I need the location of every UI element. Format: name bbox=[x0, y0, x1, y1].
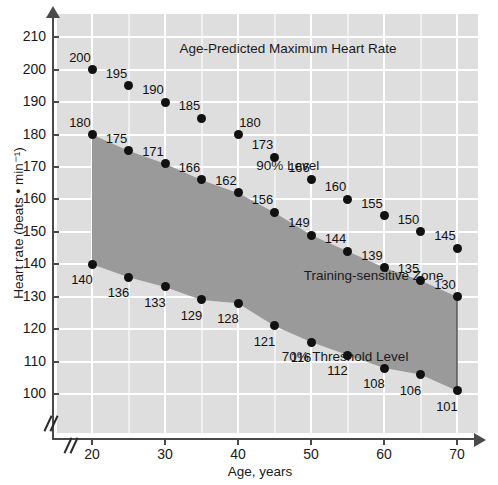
data-point bbox=[416, 370, 425, 379]
data-point bbox=[307, 231, 316, 240]
data-point-label: 128 bbox=[211, 311, 245, 326]
data-point bbox=[307, 338, 316, 347]
y-tick-mark-130 bbox=[54, 296, 59, 298]
data-point bbox=[234, 188, 243, 197]
data-point bbox=[343, 195, 352, 204]
y-tick-mark-110 bbox=[54, 361, 59, 363]
data-point-label: 112 bbox=[321, 363, 355, 378]
y-tick-mark-180 bbox=[54, 134, 59, 136]
x-tick-mark-40 bbox=[237, 440, 239, 445]
data-point-label: 133 bbox=[138, 295, 172, 310]
y-axis-line bbox=[52, 16, 54, 440]
data-point-label: 166 bbox=[173, 160, 207, 175]
data-point-label: 129 bbox=[175, 308, 209, 323]
data-point bbox=[270, 208, 279, 217]
annotation-0: Age-Predicted Maximum Heart Rate bbox=[180, 41, 397, 56]
data-point-label: 139 bbox=[355, 248, 389, 263]
data-point bbox=[88, 130, 97, 139]
data-point-label: 130 bbox=[428, 277, 462, 292]
data-point-label: 150 bbox=[392, 212, 426, 227]
data-point-label: 108 bbox=[357, 376, 391, 391]
x-tick-label-20: 20 bbox=[72, 446, 112, 462]
x-tick-label-50: 50 bbox=[291, 446, 331, 462]
x-tick-label-40: 40 bbox=[218, 446, 258, 462]
x-tick-mark-20 bbox=[91, 440, 93, 445]
chart-root: Age-Predicted Maximum Heart Rate90% Leve… bbox=[0, 0, 498, 485]
x-tick-label-70: 70 bbox=[437, 446, 477, 462]
data-point-label: 140 bbox=[65, 272, 99, 287]
data-point bbox=[416, 276, 425, 285]
data-point bbox=[234, 299, 243, 308]
y-tick-mark-120 bbox=[54, 328, 59, 330]
data-point bbox=[161, 159, 170, 168]
data-point-label: 195 bbox=[100, 66, 134, 81]
plot-area: Age-Predicted Maximum Heart Rate90% Leve… bbox=[57, 14, 478, 433]
data-point bbox=[124, 273, 133, 282]
data-point-label: 149 bbox=[282, 215, 316, 230]
y-tick-mark-150 bbox=[54, 231, 59, 233]
data-point bbox=[343, 351, 352, 360]
x-tick-mark-60 bbox=[383, 440, 385, 445]
y-tick-label-100: 100 bbox=[0, 385, 46, 401]
y-tick-mark-140 bbox=[54, 263, 59, 265]
data-point-label: 180 bbox=[233, 115, 267, 130]
data-point-label: 135 bbox=[392, 261, 426, 276]
y-tick-mark-210 bbox=[54, 36, 59, 38]
x-tick-mark-70 bbox=[456, 440, 458, 445]
data-point bbox=[161, 282, 170, 291]
y-axis-title: Heart rate (beats • min⁻¹) bbox=[10, 133, 26, 313]
y-tick-label-200: 200 bbox=[0, 61, 46, 77]
data-point bbox=[380, 263, 389, 272]
data-point-label: 166 bbox=[282, 160, 316, 175]
data-point bbox=[88, 260, 97, 269]
data-point-label: 175 bbox=[100, 131, 134, 146]
data-point bbox=[453, 292, 462, 301]
data-point-label: 156 bbox=[246, 192, 280, 207]
y-tick-label-120: 120 bbox=[0, 320, 46, 336]
x-tick-mark-30 bbox=[164, 440, 166, 445]
data-point-label: 136 bbox=[102, 285, 136, 300]
data-point-label: 144 bbox=[319, 231, 353, 246]
data-point-label: 171 bbox=[136, 144, 170, 159]
x-tick-label-30: 30 bbox=[145, 446, 185, 462]
y-tick-mark-190 bbox=[54, 101, 59, 103]
x-tick-label-60: 60 bbox=[364, 446, 404, 462]
y-tick-mark-100 bbox=[54, 393, 59, 395]
data-point bbox=[380, 211, 389, 220]
x-tick-mark-50 bbox=[310, 440, 312, 445]
y-tick-label-210: 210 bbox=[0, 28, 46, 44]
data-point bbox=[343, 247, 352, 256]
x-axis-line bbox=[52, 438, 476, 440]
data-point-label: 190 bbox=[136, 82, 170, 97]
data-point bbox=[161, 98, 170, 107]
data-point bbox=[380, 364, 389, 373]
data-point-label: 121 bbox=[248, 334, 282, 349]
data-point-label: 180 bbox=[63, 115, 97, 130]
data-point-label: 101 bbox=[430, 399, 464, 414]
y-tick-mark-160 bbox=[54, 198, 59, 200]
data-point-label: 155 bbox=[355, 196, 389, 211]
data-point-label: 173 bbox=[246, 137, 280, 152]
data-point-label: 160 bbox=[319, 179, 353, 194]
data-point-label: 185 bbox=[173, 98, 207, 113]
data-point bbox=[270, 153, 279, 162]
data-point bbox=[307, 175, 316, 184]
y-axis-arrow-icon bbox=[46, 6, 60, 18]
x-axis-arrow-icon bbox=[474, 433, 486, 447]
data-point-label: 106 bbox=[394, 383, 428, 398]
data-point-label: 200 bbox=[63, 50, 97, 65]
y-tick-mark-200 bbox=[54, 69, 59, 71]
data-point-label: 145 bbox=[428, 228, 462, 243]
y-tick-label-190: 190 bbox=[0, 93, 46, 109]
data-point-label: 162 bbox=[209, 173, 243, 188]
data-point bbox=[88, 65, 97, 74]
y-tick-mark-170 bbox=[54, 166, 59, 168]
data-point bbox=[197, 114, 206, 123]
y-tick-label-110: 110 bbox=[0, 353, 46, 369]
x-axis-title: Age, years bbox=[190, 464, 330, 479]
data-point-label: 116 bbox=[284, 350, 318, 365]
data-point bbox=[234, 130, 243, 139]
data-point bbox=[453, 386, 462, 395]
data-point bbox=[453, 244, 462, 253]
